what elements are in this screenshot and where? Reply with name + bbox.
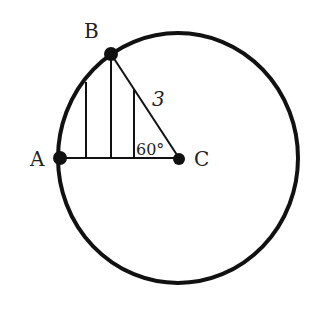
point-b-dot — [104, 47, 118, 61]
point-a-dot — [53, 151, 67, 165]
circle-diagram: A B C 3 60° — [0, 0, 321, 314]
label-a: A — [29, 147, 45, 171]
length-label: 3 — [152, 87, 165, 111]
label-b: B — [84, 19, 99, 43]
label-c: C — [194, 147, 209, 171]
angle-label: 60° — [136, 140, 164, 159]
point-c-dot — [173, 153, 185, 165]
